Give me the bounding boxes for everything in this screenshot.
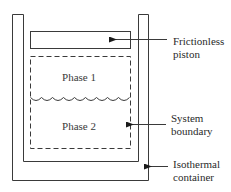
phase-1-label: Phase 1 xyxy=(62,71,96,83)
two-phase-system-diagram: Phase 1 Phase 2 Frictionless piston Syst… xyxy=(0,0,231,192)
system-boundary-label-line-2: boundary xyxy=(171,125,213,137)
isothermal-container-label-line-1: Isothermal xyxy=(173,158,220,170)
frictionless-piston xyxy=(31,32,131,49)
piston-label-line-1: Frictionless xyxy=(173,35,224,47)
isothermal-container-label-line-2: container xyxy=(173,171,214,183)
system-boundary-label-line-1: System xyxy=(171,112,204,124)
phase-interface-wavy-line xyxy=(31,98,130,101)
phase-2-label: Phase 2 xyxy=(62,120,96,132)
piston-label-line-2: piston xyxy=(173,48,200,60)
